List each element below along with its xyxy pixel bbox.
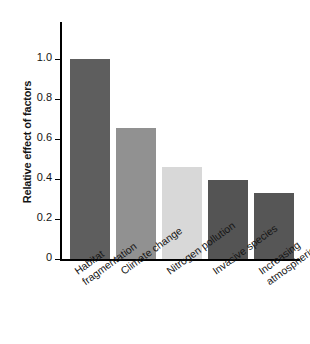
y-tick-label: 0.8 <box>37 91 52 103</box>
y-tick: 0.2 <box>55 219 60 220</box>
y-tick-label: 0.6 <box>37 131 52 143</box>
y-tick-label: 0.4 <box>37 171 52 183</box>
y-tick-label: 0.2 <box>37 211 52 223</box>
bar-chart-figure: Relative effect of factors 1.00.80.60.40… <box>0 0 310 344</box>
y-axis-line <box>60 22 62 259</box>
plot-area: 1.00.80.60.40.20 <box>60 22 300 259</box>
bar <box>70 59 110 259</box>
y-tick: 1.0 <box>55 59 60 60</box>
x-axis-labels: HabitatfragmentationClimate changeNitrog… <box>60 261 310 344</box>
y-tick: 0.6 <box>55 139 60 140</box>
y-tick: 0.4 <box>55 179 60 180</box>
y-tick-label: 1.0 <box>37 51 52 63</box>
y-tick: 0.8 <box>55 99 60 100</box>
y-tick: 0 <box>55 259 60 260</box>
y-tick-label: 0 <box>46 251 52 263</box>
y-axis-title: Relative effect of factors <box>21 22 33 262</box>
